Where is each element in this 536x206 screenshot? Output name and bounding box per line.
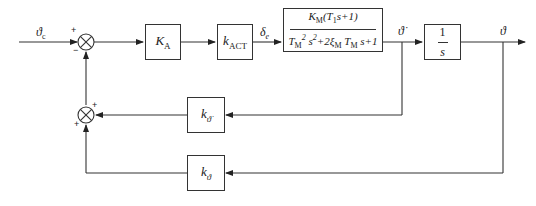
block-ka: KA [145,24,181,60]
block-plant-transfer-function: KM(T1s+1) TM2 s2+2ξM TM s+1 [283,8,383,52]
main-sum-plus-sign: + [71,26,76,35]
input-signal-label: ϑc [36,26,45,41]
feedback-sum-plus-sign-top: + [92,101,97,110]
main-sum-minus-sign: − [73,46,78,55]
block-k-angle: kϑ [187,155,225,191]
feedback-sum-plus-sign-bottom: + [74,120,79,129]
block-kact: kACT [217,24,253,60]
rate-signal-label: ϑ̇ [398,25,404,37]
actuator-output-label: δe [260,26,269,41]
block-integrator: 1 s [424,24,461,60]
block-k-rate: kϑ̇ [187,97,225,133]
fraction-bar [290,29,375,30]
output-signal-label: ϑ [500,25,506,37]
